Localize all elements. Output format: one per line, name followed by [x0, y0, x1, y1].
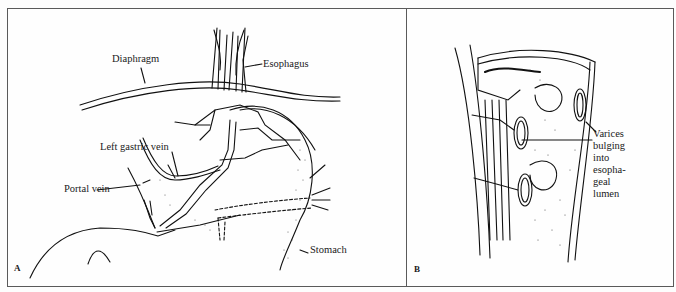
label-varices-line: into — [593, 152, 653, 164]
label-esophagus: Esophagus — [263, 58, 309, 70]
panel-letter-b: B — [414, 264, 420, 274]
label-varices-line: esopha- — [593, 164, 653, 176]
label-portal-vein: Portal vein — [64, 183, 110, 195]
panel-letter-a: A — [14, 263, 21, 273]
label-varices-line: Varices — [593, 128, 653, 140]
label-varices-line: lumen — [593, 188, 653, 200]
label-left-gastric-vein: Left gastric vein — [100, 141, 169, 153]
label-diaphragm: Diaphragm — [112, 53, 159, 65]
label-varices-line: geal — [593, 176, 653, 188]
label-varices: Varices bulging into esopha- geal lumen — [593, 128, 653, 200]
medical-figure: Diaphragm Esophagus Left gastric vein Po… — [0, 0, 676, 292]
label-stomach: Stomach — [310, 244, 347, 256]
label-varices-line: bulging — [593, 140, 653, 152]
